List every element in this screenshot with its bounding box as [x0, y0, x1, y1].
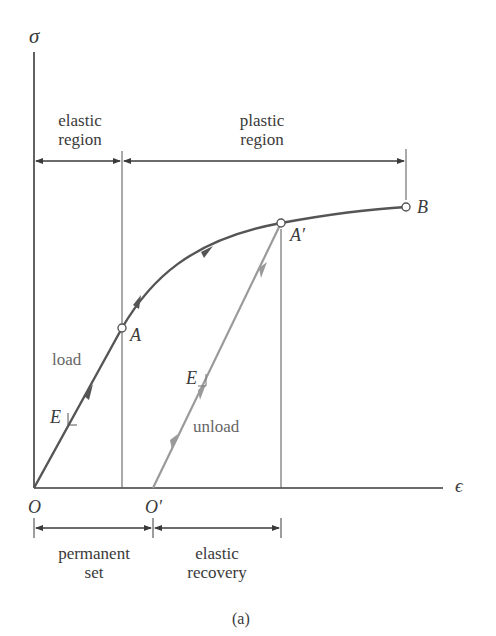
point-a-prime-label: A′ [290, 226, 305, 245]
plastic-region-label: plastic region [232, 111, 292, 149]
load-modulus-label: E [50, 408, 61, 427]
elastic-region-line1: elastic [50, 111, 110, 130]
sigma-axis-label: σ [29, 27, 39, 46]
elastic-recovery-line2: recovery [172, 563, 262, 582]
permanent-set-line2: set [46, 563, 142, 582]
epsilon-axis-label: ϵ [455, 476, 463, 495]
load-arrow-1 [84, 384, 93, 400]
load-arrow-3 [133, 295, 141, 309]
elastic-recovery-label: elastic recovery [172, 544, 262, 582]
origin-label: O [28, 498, 41, 517]
point-b-label: B [417, 198, 428, 217]
elastic-recovery-line1: elastic [172, 544, 262, 563]
figure-caption: (a) [232, 609, 250, 628]
elastic-region-line2: region [50, 130, 110, 149]
o-prime-label: O′ [145, 498, 162, 517]
unload-modulus-label: E [186, 369, 197, 388]
permanent-set-label: permanent set [46, 544, 142, 582]
point-a [118, 324, 126, 332]
plastic-region-line1: plastic [232, 111, 292, 130]
load-label: load [52, 350, 81, 369]
point-b [402, 203, 410, 211]
point-a-prime [277, 219, 285, 227]
permanent-set-line1: permanent [46, 544, 142, 563]
point-a-label: A [130, 326, 141, 345]
elastic-region-label: elastic region [50, 111, 110, 149]
unload-arrow-3 [170, 434, 178, 450]
stress-strain-diagram [0, 0, 496, 636]
unload-label: unload [193, 417, 239, 436]
plastic-region-line2: region [232, 130, 292, 149]
